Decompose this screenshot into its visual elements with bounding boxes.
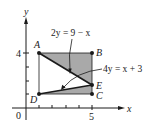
equation-label-2y: 2y = 9 − x <box>51 28 90 38</box>
x-tick-label: 5 <box>89 111 94 122</box>
point-b-label: B <box>96 47 102 58</box>
point-a-label: A <box>33 39 41 50</box>
equation-label-4y: 4y = x + 3 <box>103 64 142 74</box>
point-e <box>90 83 94 87</box>
region-diagram: y x 0 4 5 A B C D E 2y = 9 − x 4y = x + … <box>0 0 153 127</box>
x-axis-arrow-icon <box>118 106 125 110</box>
y-tick-label: 4 <box>16 48 21 59</box>
x-axis-label: x <box>126 103 132 114</box>
point-d <box>37 92 41 96</box>
point-c <box>90 92 94 96</box>
point-e-label: E <box>95 80 102 91</box>
point-b <box>90 51 94 55</box>
y-axis-label: y <box>23 6 29 17</box>
point-c-label: C <box>96 90 103 101</box>
y-axis-arrow-icon <box>24 17 28 24</box>
point-d-label: D <box>29 94 38 105</box>
point-a <box>37 51 41 55</box>
origin-label: 0 <box>16 110 21 121</box>
